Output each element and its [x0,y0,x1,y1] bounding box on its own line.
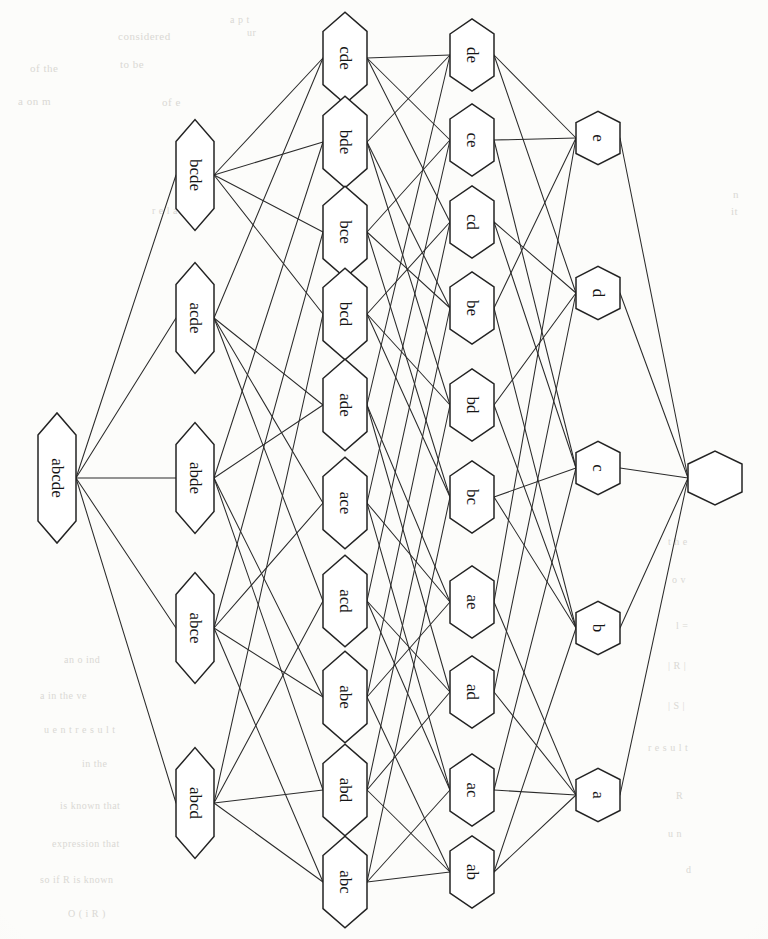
lattice-node[interactable]: cd [450,186,494,258]
lattice-edge [494,293,576,405]
lattice-edge [367,142,450,308]
lattice-edge [494,138,576,140]
lattice-node[interactable]: bcd [323,268,367,360]
lattice-node[interactable]: abe [323,651,367,743]
lattice-node-label: bcde [186,159,205,191]
lattice-node[interactable]: ce [450,104,494,176]
lattice-edge [367,601,450,790]
lattice-node-label: bc [463,489,482,506]
lattice-node-label: be [463,300,482,316]
lattice-edge [214,790,323,803]
lattice-edge [214,628,323,697]
lattice-node[interactable]: bcde [176,120,214,231]
lattice-node[interactable]: abcde [38,413,76,543]
lattice-node-label: abcd [186,787,205,820]
lattice-edge [367,58,450,222]
lattice-node[interactable]: d [576,266,620,319]
lattice-edge [494,138,576,602]
lattice-edge [367,790,450,872]
lattice-edge [214,142,323,478]
lattice-node[interactable]: bd [450,369,494,441]
lattice-node[interactable]: acd [323,555,367,647]
lattice-edge [620,468,688,478]
figure-canvas: considereda p turof theto bea on mof er … [0,0,768,939]
hasse-diagram-svg: abcdebcdeacdeabdeabceabcdcdebdebcebcdade… [0,0,768,939]
lattice-node-label: abd [336,778,355,803]
lattice-node-label: acde [186,302,205,333]
lattice-edge [367,497,450,882]
lattice-node[interactable]: abcd [176,748,214,859]
lattice-node[interactable]: ae [450,566,494,638]
lattice-node[interactable] [688,451,742,505]
lattice-edge [494,628,576,872]
lattice-node-label: bcd [336,302,355,327]
lattice-node-label: bd [463,397,482,415]
lattice-edge [367,405,450,790]
lattice-node[interactable]: bc [450,461,494,533]
lattice-node[interactable]: ad [450,656,494,728]
lattice-node[interactable]: ac [450,754,494,826]
lattice-edge [367,222,450,314]
lattice-node-label: abe [336,685,355,709]
lattice-node[interactable]: bde [323,96,367,188]
lattice-node[interactable]: a [576,768,620,821]
hexagon-icon [688,451,742,505]
lattice-node[interactable]: cde [323,12,367,104]
lattice-edge [367,55,450,142]
lattice-node[interactable]: bce [323,186,367,278]
lattice-edge [214,405,323,478]
lattice-node[interactable]: de [450,19,494,91]
lattice-node-label: cde [336,46,355,70]
lattice-edge [367,308,450,697]
lattice-edge [214,503,323,628]
lattice-edge [367,314,450,405]
lattice-edge [620,138,688,478]
lattice-edge [367,872,450,882]
lattice-node[interactable]: abd [323,744,367,836]
lattice-edge [620,478,688,795]
lattice-node[interactable]: ace [323,457,367,549]
lattice-node[interactable]: ab [450,836,494,908]
lattice-node-label: ade [336,393,355,417]
lattice-node[interactable]: ade [323,359,367,451]
lattice-node[interactable]: be [450,272,494,344]
lattice-node[interactable]: abce [176,573,214,684]
lattice-edge [214,478,323,697]
lattice-edge [214,803,323,882]
lattice-edge [494,795,576,872]
lattice-edge [367,601,450,692]
lattice-node-label: ace [336,492,355,515]
lattice-node-label: abc [336,870,355,894]
lattice-edge [367,692,450,790]
lattice-node-label: acd [336,589,355,613]
lattice-edge [76,318,176,478]
lattice-edge [367,55,450,58]
lattice-edge [214,58,323,175]
lattice-edge [214,478,323,790]
lattice-edge [214,318,323,503]
lattice-edge [367,314,450,497]
lattice-node[interactable]: c [576,441,620,494]
lattice-edge [76,478,176,628]
lattice-edge [494,790,576,795]
lattice-node-label: abde [186,462,205,494]
lattice-edge [494,140,576,468]
lattice-edge [76,478,176,803]
lattice-node-label: d [589,289,608,298]
lattice-node-label: abce [186,612,205,643]
lattice-node-label: ae [463,594,482,609]
lattice-node[interactable]: b [576,601,620,654]
lattice-node[interactable]: acde [176,263,214,374]
lattice-node[interactable]: abde [176,423,214,534]
lattice-edge [367,140,450,503]
lattice-edge [620,293,688,478]
lattice-edge [214,628,323,882]
lattice-edge [214,175,323,232]
lattice-node[interactable]: abc [323,836,367,928]
lattice-edge [214,601,323,803]
lattice-edge [367,697,450,872]
lattice-node-label: ac [463,782,482,798]
lattice-node-label: c [589,464,608,472]
lattice-edge [620,478,688,628]
lattice-node[interactable]: e [576,111,620,164]
